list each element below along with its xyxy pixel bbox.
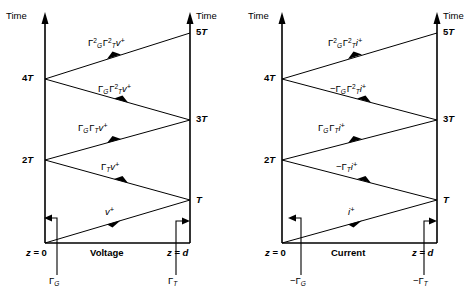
current-wave-label-1: i+ bbox=[348, 206, 355, 217]
current-tick-5T: 5T bbox=[443, 27, 454, 37]
voltage-wave-label-1: v+ bbox=[105, 206, 114, 217]
voltage-wave-label-3: ΓG ΓTv+ bbox=[78, 122, 108, 135]
bounce-diagram-figure: Time Time 4T 2T 5T 3T T Γ2G Γ2Tv+ ΓG Γ2T… bbox=[0, 0, 476, 301]
current-tick-3T: 3T bbox=[443, 114, 454, 124]
current-wave-label-2: −ΓTi+ bbox=[336, 161, 357, 174]
voltage-left-position-label: z = 0 bbox=[26, 248, 47, 258]
current-right-position-label: z = d bbox=[412, 248, 433, 258]
voltage-panel-geometry bbox=[42, 12, 194, 275]
voltage-tick-3T: 3T bbox=[196, 114, 207, 124]
voltage-load-reflection-label: ΓT bbox=[168, 276, 177, 288]
current-tick-4T: 4T bbox=[264, 73, 275, 83]
current-left-position-label: z = 0 bbox=[265, 248, 286, 258]
current-tick-2T: 2T bbox=[264, 155, 275, 165]
current-right-time-axis-label: Time bbox=[443, 11, 464, 21]
voltage-left-time-axis-label: Time bbox=[6, 11, 27, 21]
voltage-right-time-axis-label: Time bbox=[196, 11, 217, 21]
voltage-tick-T: T bbox=[196, 195, 202, 205]
voltage-source-reflection-label: ΓG bbox=[49, 276, 59, 288]
current-panel-title: Current bbox=[331, 248, 365, 258]
current-panel-geometry bbox=[279, 12, 441, 275]
current-wave-label-5: Γ2G Γ2Ti+ bbox=[328, 37, 362, 50]
voltage-panel-title: Voltage bbox=[90, 248, 124, 258]
bounce-diagram-lines bbox=[0, 0, 476, 301]
current-source-reflection-label: −ΓG bbox=[290, 276, 306, 288]
current-wave-label-4: −ΓG Γ2Ti+ bbox=[330, 83, 366, 96]
current-left-time-axis-label: Time bbox=[248, 11, 269, 21]
voltage-wave-label-2: ΓTv+ bbox=[101, 161, 119, 174]
current-wave-label-3: ΓG ΓTi+ bbox=[318, 122, 345, 135]
voltage-wave-label-4: ΓG Γ2Tv+ bbox=[98, 83, 131, 96]
current-tick-T: T bbox=[443, 195, 449, 205]
current-load-reflection-label: −ΓT bbox=[413, 276, 428, 288]
voltage-wave-label-5: Γ2G Γ2Tv+ bbox=[88, 37, 125, 50]
voltage-right-position-label: z = d bbox=[167, 248, 188, 258]
voltage-tick-4T: 4T bbox=[22, 73, 33, 83]
voltage-tick-5T: 5T bbox=[196, 27, 207, 37]
voltage-tick-2T: 2T bbox=[22, 155, 33, 165]
